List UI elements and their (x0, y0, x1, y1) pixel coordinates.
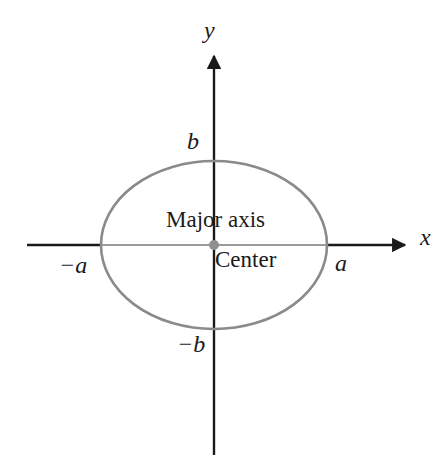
vertex-negative-a-label: −a (59, 253, 87, 277)
vertex-a-label: a (335, 251, 347, 275)
x-axis-label: x (420, 225, 431, 249)
ellipse-figure: y x b −b −a a Major axis Center (0, 0, 443, 464)
ellipse-diagram-svg (0, 0, 443, 464)
co-vertex-negative-b-label: −b (177, 332, 205, 356)
center-label: Center (215, 248, 276, 271)
y-axis-label: y (204, 18, 215, 42)
co-vertex-b-label: b (187, 129, 199, 153)
major-axis-label: Major axis (166, 208, 265, 231)
